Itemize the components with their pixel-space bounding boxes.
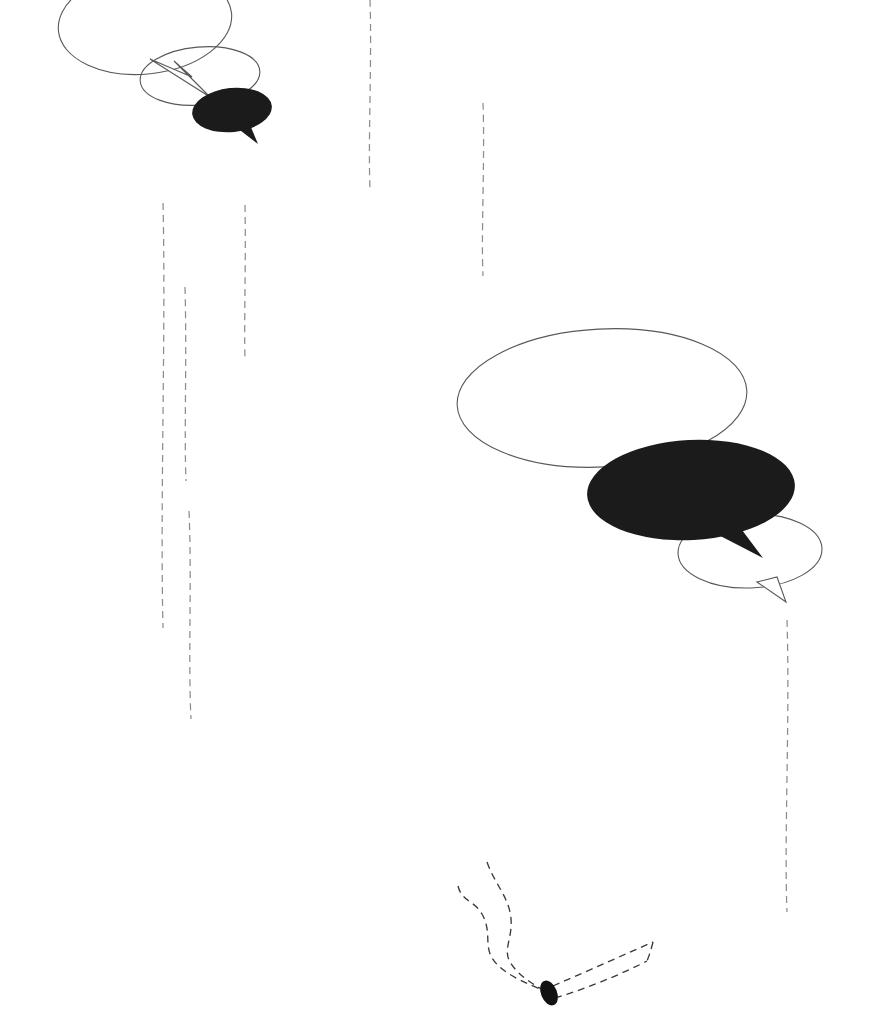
illustration-canvas [0, 0, 869, 1027]
speech-bubble-diagram [0, 0, 869, 1027]
